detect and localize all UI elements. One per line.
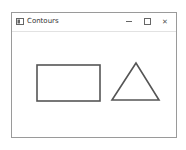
triangle-contour xyxy=(112,63,159,100)
app-icon xyxy=(16,18,24,25)
minimize-icon xyxy=(126,21,132,22)
title-bar[interactable]: Contours ✕ xyxy=(12,13,176,32)
drawing-canvas xyxy=(12,31,176,138)
close-button[interactable]: ✕ xyxy=(156,15,174,28)
window-title: Contours xyxy=(27,16,59,27)
maximize-icon xyxy=(144,18,151,25)
close-icon: ✕ xyxy=(162,18,168,26)
app-window: Contours ✕ xyxy=(11,12,177,138)
minimize-button[interactable] xyxy=(120,15,138,28)
maximize-button[interactable] xyxy=(138,15,156,28)
rectangle-contour xyxy=(37,65,100,101)
